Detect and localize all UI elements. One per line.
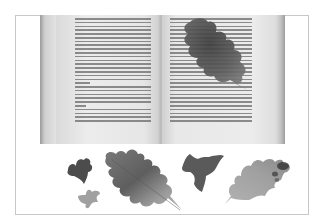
left-page-text	[75, 18, 151, 124]
left-page	[56, 15, 160, 144]
book-edge-right	[275, 15, 285, 144]
oak-leaf-pale	[225, 154, 293, 206]
ivy-leaf	[180, 152, 224, 192]
oak-leaf-on-book	[178, 16, 258, 92]
large-oak-leaf	[104, 148, 184, 212]
book-spine-edge-left	[40, 15, 56, 144]
small-ivy-leaf-dark	[66, 156, 94, 184]
small-ivy-leaf-light	[78, 188, 102, 210]
